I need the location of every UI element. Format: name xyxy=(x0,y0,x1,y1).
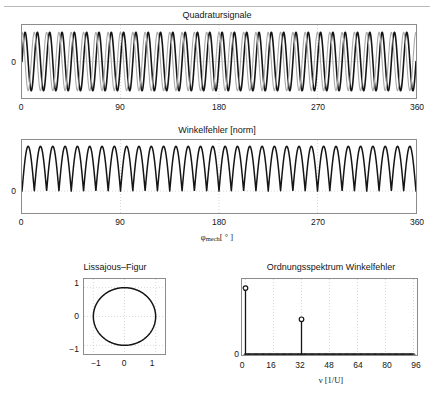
panel-winkelfehler: Winkelfehler [norm] 0 0 90 180 270 360 φ… xyxy=(0,125,434,250)
panel-lissajous-figur: Lissajous–Figur 1 0 −1 −1 0 1 xyxy=(55,262,175,403)
xaxis-unit-per-revolution: [1/U] xyxy=(325,375,343,385)
xtick-spectrum-16: 16 xyxy=(266,360,275,370)
lissajous-curve xyxy=(84,279,165,354)
xtick-spectrum-32: 32 xyxy=(295,360,304,370)
xtick-lissajous-0: 0 xyxy=(122,358,127,368)
xtick-winkelfehler-90: 90 xyxy=(115,217,124,227)
plot-area-ordnungsspektrum xyxy=(241,278,418,356)
xtick-quadrature-360: 360 xyxy=(410,102,424,112)
xaxis-subscript-mech: mech xyxy=(206,235,220,242)
panel-quadratursignale: Quadratursignale 0 0 90 180 270 360 xyxy=(0,10,434,120)
chart-title-lissajous: Lissajous–Figur xyxy=(55,262,175,272)
spectrum-stems xyxy=(242,279,417,355)
quadrature-waveforms xyxy=(22,25,416,98)
chart-title-quadratursignale: Quadratursignale xyxy=(0,10,434,20)
xtick-lissajous-1: 1 xyxy=(150,358,155,368)
xtick-spectrum-64: 64 xyxy=(353,360,362,370)
xtick-spectrum-48: 48 xyxy=(324,360,333,370)
plot-area-quadratursignale xyxy=(21,24,417,99)
xtick-winkelfehler-180: 180 xyxy=(212,217,226,227)
xtick-spectrum-0: 0 xyxy=(240,360,245,370)
panel-ordnungsspektrum: Ordnungsspektrum Winkelfehler 0 0 16 32 … xyxy=(228,262,434,403)
page-top-rule xyxy=(4,6,430,7)
xtick-winkelfehler-270: 270 xyxy=(311,217,325,227)
ytick-quadrature-0: 0 xyxy=(4,57,16,67)
ytick-lissajous-minus1: −1 xyxy=(63,344,79,354)
ytick-spectrum-0: 0 xyxy=(228,349,239,359)
ytick-lissajous-1: 1 xyxy=(63,278,79,288)
ytick-winkelfehler-0: 0 xyxy=(4,186,16,196)
winkelfehler-waveform xyxy=(22,140,416,213)
xtick-spectrum-96: 96 xyxy=(411,360,420,370)
xaxis-label-winkelfehler: φmech[ ° ] xyxy=(0,232,434,242)
xtick-spectrum-80: 80 xyxy=(382,360,391,370)
xtick-quadrature-270: 270 xyxy=(311,102,325,112)
chart-title-winkelfehler: Winkelfehler [norm] xyxy=(0,125,434,135)
xtick-winkelfehler-0: 0 xyxy=(19,217,24,227)
xaxis-symbol-nu: ν xyxy=(319,375,323,385)
xaxis-unit-degree: [ ° ] xyxy=(220,232,233,242)
xtick-lissajous-minus1: −1 xyxy=(91,358,101,368)
xaxis-label-spectrum: ν[1/U] xyxy=(228,375,434,385)
plot-area-lissajous xyxy=(83,278,166,355)
xtick-quadrature-0: 0 xyxy=(19,102,24,112)
plot-area-winkelfehler xyxy=(21,139,417,214)
xtick-winkelfehler-360: 360 xyxy=(410,217,424,227)
chart-title-ordnungsspektrum: Ordnungsspektrum Winkelfehler xyxy=(228,262,434,272)
xtick-quadrature-180: 180 xyxy=(212,102,226,112)
ytick-lissajous-0: 0 xyxy=(63,311,79,321)
xtick-quadrature-90: 90 xyxy=(115,102,124,112)
